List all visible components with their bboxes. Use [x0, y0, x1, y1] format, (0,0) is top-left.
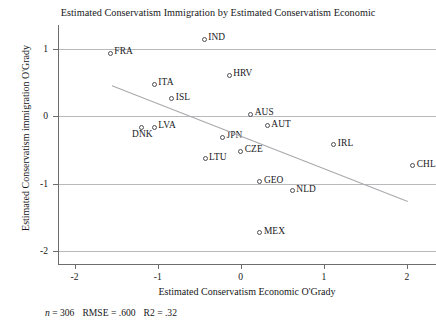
x-tick-mark	[324, 264, 325, 269]
data-point-marker	[290, 188, 295, 193]
data-point-label: JPN	[226, 130, 242, 140]
data-point-marker	[238, 149, 243, 154]
data-point-label: DNK	[132, 129, 153, 139]
data-point-label: CHL	[417, 159, 436, 169]
x-tick-mark	[75, 264, 76, 269]
y-axis-line	[58, 25, 59, 265]
x-tick-label: 1	[312, 271, 336, 282]
gridline-y	[58, 251, 436, 252]
data-point-label: LVA	[158, 120, 176, 130]
data-point-marker	[152, 82, 157, 87]
data-point-marker	[257, 230, 262, 235]
chart-footnote: n = 306RMSE = .600R2 = .32	[45, 307, 177, 318]
x-tick-mark	[407, 264, 408, 269]
data-point-marker	[202, 37, 207, 42]
data-point-label: AUS	[255, 107, 274, 117]
gridline-y	[58, 184, 436, 185]
data-point-label: FRA	[114, 46, 133, 56]
data-point-marker	[248, 112, 253, 117]
plot-area: INDFRAHRVITAISLAUSAUTDNKLVAJPNCZELTUIRLC…	[58, 25, 436, 265]
data-point-label: MEX	[264, 226, 285, 236]
data-point-marker	[227, 73, 232, 78]
footnote-rmse: RMSE = .600	[82, 307, 135, 318]
data-point-marker	[108, 51, 113, 56]
footnote-r2: R2 = .32	[144, 307, 177, 318]
data-point-label: GEO	[264, 175, 284, 185]
x-tick-label: -2	[63, 271, 87, 282]
x-tick-label: 0	[229, 271, 253, 282]
chart-title: Estimated Conservatism Immigration by Es…	[0, 7, 436, 18]
y-tick-mark	[53, 251, 59, 252]
x-tick-label: -1	[146, 271, 170, 282]
data-point-marker	[169, 96, 174, 101]
x-tick-mark	[158, 264, 159, 269]
x-tick-mark	[241, 264, 242, 269]
y-axis-label: Estimated Conservatism immigration O'Gra…	[20, 18, 31, 258]
y-tick-mark	[53, 184, 59, 185]
scatter-plot-figure: Estimated Conservatism Immigration by Es…	[0, 0, 436, 330]
x-axis-line	[58, 264, 436, 265]
x-tick-label: 2	[395, 271, 419, 282]
data-point-marker	[265, 123, 270, 128]
data-point-label: IRL	[338, 138, 353, 148]
data-point-marker	[220, 135, 225, 140]
data-point-label: AUT	[271, 119, 291, 129]
gridline-y	[58, 116, 436, 117]
data-point-label: CZE	[245, 144, 263, 154]
data-point-label: ITA	[158, 77, 173, 87]
data-point-label: HRV	[233, 68, 252, 78]
data-point-marker	[152, 125, 157, 130]
data-point-marker	[203, 156, 208, 161]
y-tick-mark	[53, 49, 59, 50]
footnote-n-value: = 306	[50, 307, 75, 318]
data-point-marker	[331, 142, 336, 147]
data-point-label: ISL	[176, 92, 190, 102]
y-tick-mark	[53, 116, 59, 117]
data-point-label: LTU	[209, 152, 227, 162]
data-point-label: NLD	[296, 184, 316, 194]
data-point-marker	[410, 163, 415, 168]
data-point-label: IND	[208, 32, 225, 42]
x-axis-label: Estimated Conservatism Economic O'Grady	[58, 286, 436, 297]
